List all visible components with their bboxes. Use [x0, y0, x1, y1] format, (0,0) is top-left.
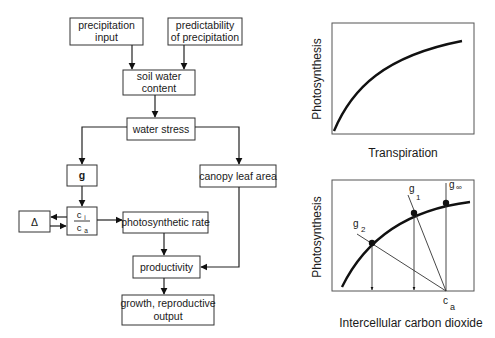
label-g2-sub: 2 — [361, 225, 366, 234]
plot-frame — [332, 23, 474, 134]
label-g-infinity: g — [449, 179, 455, 190]
box-soil-water-content: soil water content — [123, 70, 195, 95]
box-g: g — [67, 165, 97, 186]
chart-photosynthesis-vs-intercellular-co2: g 2 g 1 g ∞ c a Photosynthesis Intercell… — [310, 179, 483, 330]
box-delta: Δ — [19, 211, 50, 232]
box-canopy-leaf-area: canopy leaf area — [199, 165, 277, 187]
box-photosynthetic-rate: photosynthetic rate — [121, 212, 210, 233]
y-axis-label: Photosynthesis — [310, 38, 324, 119]
label: canopy leaf area — [199, 170, 277, 182]
label: growth, reproductive — [120, 297, 215, 309]
x-axis-label: Intercellular carbon dioxide — [339, 316, 483, 330]
y-axis-label: Photosynthesis — [310, 196, 324, 277]
label: a — [84, 227, 88, 234]
box-productivity: productivity — [133, 256, 200, 278]
label: of precipitation — [171, 31, 239, 43]
label-ca: c — [443, 295, 448, 306]
label-g1-sub: 1 — [416, 193, 421, 202]
label: c — [77, 222, 82, 233]
label-ca-sub: a — [450, 302, 455, 312]
label-g-infinity-sub: ∞ — [456, 183, 462, 192]
label: photosynthetic rate — [121, 216, 210, 228]
point-g1 — [411, 210, 417, 216]
point-g-infinity — [443, 200, 449, 206]
label: predictability — [176, 19, 235, 31]
label: water stress — [132, 123, 190, 135]
box-growth-reproductive-output: growth, reproductive output — [120, 295, 215, 325]
label: input — [95, 31, 118, 43]
label: output — [153, 310, 182, 322]
label: soil water — [137, 70, 182, 82]
flowchart: precipitation input predictability of pr… — [19, 18, 277, 325]
box-precipitation-input: precipitation input — [70, 18, 143, 45]
label: content — [142, 82, 177, 94]
response-curve — [342, 202, 470, 287]
diagram-canvas: precipitation input predictability of pr… — [0, 0, 495, 338]
box-predictability-of-precipitation: predictability of precipitation — [168, 18, 242, 45]
box-water-stress: water stress — [127, 118, 195, 140]
plot-frame — [332, 180, 474, 291]
label: c — [77, 209, 82, 220]
label-g1: g — [409, 183, 415, 194]
response-curve — [334, 41, 462, 131]
label: precipitation — [78, 19, 135, 31]
label: productivity — [140, 261, 194, 273]
point-g2 — [369, 240, 375, 246]
chart-photosynthesis-vs-transpiration: Photosynthesis Transpiration — [310, 23, 474, 160]
label-g2: g — [353, 218, 359, 229]
box-ci-over-ca: c i c a — [67, 207, 97, 235]
label: g — [79, 169, 85, 181]
x-axis-label: Transpiration — [368, 146, 438, 160]
label: i — [84, 214, 85, 221]
label: Δ — [31, 216, 38, 228]
